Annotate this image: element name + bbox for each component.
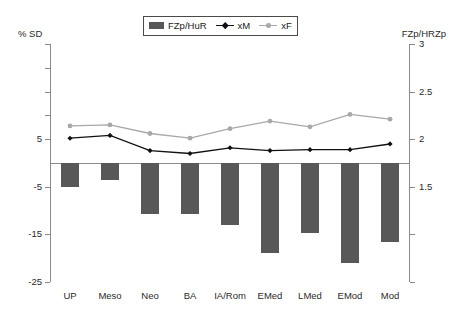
right-axis-tick-label: 2 [419,134,424,144]
data-point-xm-up [67,136,72,141]
category-label-ba: BA [184,291,197,301]
right-axis-tick-label: 3 [419,39,424,49]
right-axis-tick [410,234,415,235]
data-point-xf-lmed [308,124,313,129]
data-point-xm-mod [387,141,392,146]
chart-container: % SD FZp/HRZp FZp/HuRxMxF 5-5-15-25 32.5… [0,0,458,318]
legend-entry-xm[interactable]: xM [216,21,251,31]
data-point-xf-emed [268,119,273,124]
data-point-xm-neo [147,148,152,153]
data-point-xm-lmed [307,147,312,152]
data-point-xm-meso [107,133,112,138]
data-point-xm-emod [347,147,352,152]
data-point-xf-up [68,124,73,129]
data-point-xf-ia-rom [228,126,233,131]
category-label-up: UP [63,291,76,301]
data-point-xm-ia-rom [227,145,232,150]
left-axis-tick-label: -5 [8,182,42,192]
category-label-neo: Neo [141,291,158,301]
data-point-xm-emed [267,148,272,153]
category-label-emed: EMed [258,291,283,301]
data-point-xf-ba [188,136,193,141]
line-path-xm [70,135,390,153]
line-circle-icon [259,21,277,30]
legend-label: FZp/HuR [168,21,207,31]
left-axis-title: % SD [18,28,42,39]
right-axis-tick-label: 2.5 [419,87,432,97]
data-point-xf-neo [148,131,153,136]
right-axis-tick [410,139,415,140]
legend-entry-fzp-hur[interactable]: FZp/HuR [149,21,207,31]
right-axis-tick [410,187,415,188]
right-axis-tick [410,44,415,45]
data-point-xf-emod [348,112,353,117]
left-axis-tick [45,282,50,283]
right-axis-tick-label: 1.5 [419,182,432,192]
category-label-meso: Meso [98,291,121,301]
category-label-lmed: LMed [298,291,322,301]
category-label-emod: EMod [338,291,363,301]
plot-area: 5-5-15-25 32.521.5 UPMesoNeoBAIA/RomEMed… [50,44,410,282]
legend-entry-xf[interactable]: xF [259,21,292,31]
left-axis-tick-label: 5 [8,134,42,144]
category-label-ia-rom: IA/Rom [214,291,246,301]
right-axis-tick [410,282,415,283]
legend-label: xM [238,21,251,31]
left-axis-tick-label: -15 [8,229,42,239]
legend-label: xF [281,21,292,31]
chart-legend: FZp/HuRxMxF [143,16,298,36]
data-point-xf-mod [388,117,393,122]
category-label-mod: Mod [381,291,399,301]
line-series-overlay [50,44,410,282]
left-axis-tick-label: -25 [8,277,42,287]
data-point-xf-meso [108,123,113,128]
bar-swatch-icon [149,22,164,29]
data-point-xm-ba [187,151,192,156]
right-axis-tick [410,92,415,93]
line-diamond-icon [216,21,234,30]
